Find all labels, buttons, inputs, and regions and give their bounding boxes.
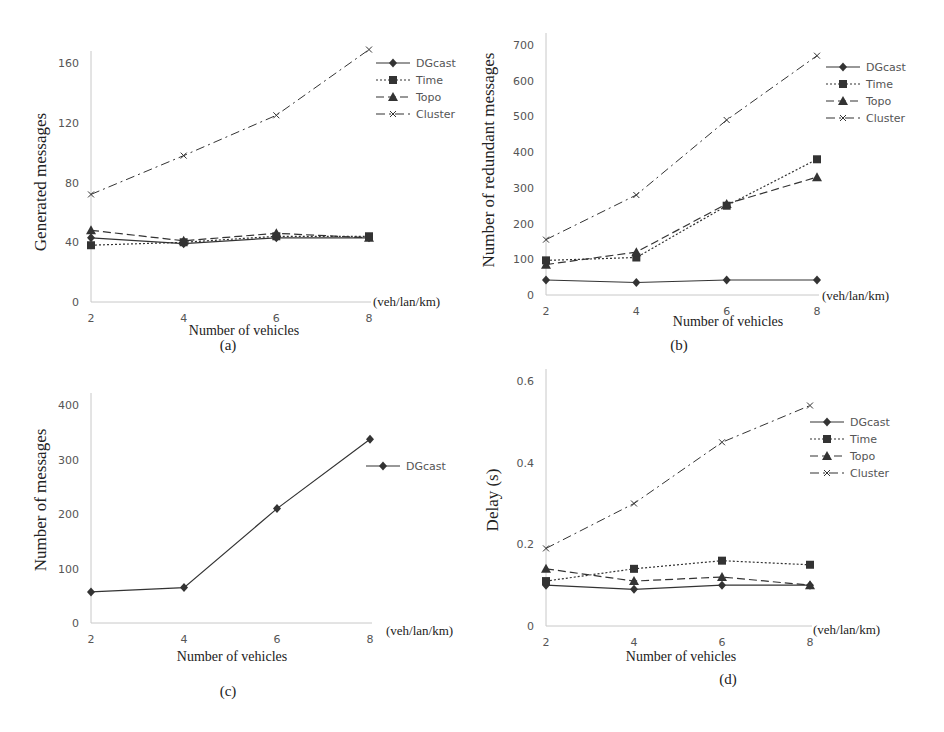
panel-label: (d) [719,671,737,688]
chart-panel-d: 00.20.40.62468Number of vehicles(veh/lan… [483,369,891,688]
y-tick-label: 300 [58,454,79,467]
triangle-marker [86,225,96,234]
legend-label-dgcast: DGcast [866,61,907,74]
series-line [546,406,810,549]
square-marker [542,577,550,585]
series-line [91,230,369,241]
x-axis-title: Number of vehicles [626,649,736,664]
x-tick-label: 8 [366,312,373,325]
diamond-marker [630,585,638,594]
legend-label-dgcast: DGcast [850,416,891,429]
square-marker [630,565,638,573]
y-tick-label: 100 [513,253,534,266]
y-tick-label: 0.4 [517,457,535,470]
x-tick-label: 4 [631,636,638,649]
y-tick-label: 80 [65,177,79,190]
series-cluster [543,53,820,243]
legend-marker-time [823,435,831,443]
x-marker [181,153,187,159]
y-tick-label: 160 [58,57,79,70]
triangle-marker [631,247,641,256]
series-cluster [543,403,813,552]
y-axis-title: Number of redundant messages [479,53,498,268]
x-marker [724,117,730,123]
x-tick-label: 8 [814,305,821,318]
series-line [546,177,817,265]
x-tick-label: 8 [367,633,374,646]
legend-label-topo: Topo [415,91,442,104]
legend-label-dgcast: DGcast [416,57,457,70]
chart-panel-b: 01002003004005006007002468Number of vehi… [479,33,907,354]
x-marker [807,403,813,409]
series-time [542,155,821,264]
x-axis-unit: (veh/lan/km) [813,622,880,637]
legend: DGcastTimeTopoCluster [826,61,907,125]
diamond-marker [87,587,95,596]
x-tick-label: 6 [274,633,281,646]
series-line [91,439,370,592]
x-axis-unit: (veh/lan/km) [822,288,889,303]
diamond-marker [718,581,726,590]
x-tick-label: 4 [180,312,187,325]
chart-panel-c: 01002003004002468Number of vehicles(veh/… [31,393,453,700]
legend-label-time: Time [865,78,893,91]
diamond-marker [366,435,374,444]
series-line [91,50,369,195]
diamond-marker [180,583,188,592]
y-tick-label: 200 [58,508,79,521]
diamond-marker [723,276,731,285]
series-time [542,557,814,585]
panel-label: (a) [220,337,237,354]
y-tick-label: 600 [513,75,534,88]
y-tick-label: 40 [65,236,79,249]
x-axis-title: Number of vehicles [673,314,783,329]
series-line [546,56,817,240]
y-tick-label: 120 [58,117,79,130]
y-tick-label: 0.2 [517,538,535,551]
y-tick-label: 400 [513,146,534,159]
legend-marker-time [389,76,397,84]
series-dgcast [87,435,374,597]
triangle-marker [717,572,727,581]
legend-marker-time [839,80,847,88]
x-tick-label: 2 [88,312,95,325]
chart-panel-a: 040801201602468Number of vehicles(veh/la… [31,47,457,354]
diamond-marker [813,276,821,285]
legend-marker-dgcast [389,59,397,68]
diamond-marker [632,278,640,287]
y-tick-label: 300 [513,182,534,195]
legend-marker-dgcast [823,418,831,427]
x-axis-unit: (veh/lan/km) [386,623,453,638]
panel-label: (b) [670,337,688,354]
legend-label-time: Time [415,74,443,87]
y-tick-label: 0 [72,617,79,630]
x-marker [719,439,725,445]
series-line [546,159,817,260]
square-marker [813,155,821,163]
legend: DGcastTimeTopoCluster [810,416,891,480]
triangle-marker [541,564,551,573]
legend-label-topo: Topo [865,95,892,108]
y-tick-label: 700 [513,39,534,52]
series-line [546,561,810,581]
x-marker [633,192,639,198]
x-marker [631,501,637,507]
y-axis-title: Delay (s) [483,469,502,532]
y-tick-label: 0 [72,296,79,309]
legend: DGcastTimeTopoCluster [376,57,457,121]
legend-marker-dgcast [379,462,387,471]
x-axis-title: Number of vehicles [177,649,287,664]
x-marker [366,47,372,53]
y-tick-label: 0.6 [517,375,535,388]
legend: DGcast [366,460,447,473]
square-marker [806,561,814,569]
square-marker [718,557,726,565]
y-tick-label: 500 [513,110,534,123]
x-tick-label: 8 [807,636,814,649]
legend-marker-dgcast [839,63,847,72]
y-axis-title: Number of messages [31,429,50,572]
x-tick-label: 6 [719,636,726,649]
y-tick-label: 400 [58,399,79,412]
series-line [546,280,817,283]
x-tick-label: 2 [543,636,550,649]
